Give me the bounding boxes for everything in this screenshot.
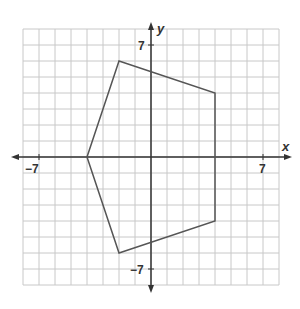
axes [11,22,292,293]
y-axis-label: y [156,21,165,36]
x-axis-arrow-left [11,154,19,160]
tick-label-y-pos7: 7 [138,39,145,53]
x-axis-arrow-right [284,154,292,160]
y-axis-arrow-top [148,22,154,30]
coordinate-plane: x y −7 7 7 −7 [0,0,300,309]
tick-label-x-pos7: 7 [259,162,266,176]
tick-label-y-neg7: −7 [130,263,144,277]
y-axis-arrow-bottom [148,285,154,293]
x-axis-label: x [281,139,290,154]
tick-label-x-neg7: −7 [25,162,39,176]
